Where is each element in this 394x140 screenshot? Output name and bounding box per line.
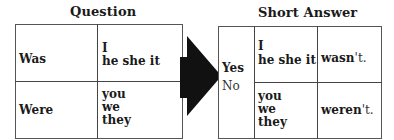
answer-wasnt-rest: 't. [355,51,367,65]
answer-subject: we [258,103,276,115]
question-title: Question [70,4,136,19]
question-subject: they [102,114,131,126]
response-yes: Yes [222,62,244,74]
answer-wasnt-bold: wasn [321,51,355,65]
question-subject: I [102,42,108,54]
answer-werent-rest: 't. [362,103,374,117]
response-no: No [222,80,240,92]
short-answer-row-divider [254,82,382,83]
answer-subject: they [258,116,287,128]
question-verb-were: Were [19,104,53,116]
answer-werent: weren't. [321,104,374,116]
answer-subject: he she it [258,54,316,66]
question-subject: he she it [102,55,160,67]
answer-werent-bold: weren [321,103,362,117]
question-subject: we [102,101,120,113]
question-row-divider [15,81,183,82]
question-verb-was: Was [19,53,46,65]
answer-subject: you [258,90,282,102]
answer-wasnt: wasn't. [321,52,367,64]
answer-subject: I [258,40,264,52]
right-arrow-icon [180,36,220,118]
short-answer-title: Short Answer [258,5,357,20]
question-subject: you [102,88,126,100]
